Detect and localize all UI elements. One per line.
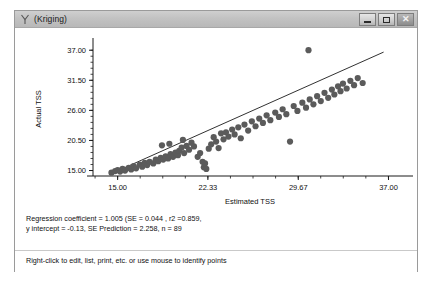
data-point[interactable] (280, 106, 286, 112)
regression-stats: Regression coefficient = 1.005 (SE = 0.0… (20, 214, 410, 244)
data-point[interactable] (216, 145, 222, 151)
data-point[interactable] (197, 150, 203, 156)
close-button[interactable]: ✕ (397, 13, 414, 26)
data-point[interactable] (249, 118, 255, 124)
x-axis-tick-label: 29.67 (289, 183, 308, 192)
data-point[interactable] (267, 117, 273, 123)
close-icon: ✕ (402, 15, 410, 24)
data-point[interactable] (213, 138, 219, 144)
x-axis-tick-label: 22.33 (198, 183, 217, 192)
data-point[interactable] (283, 111, 289, 117)
data-point[interactable] (245, 128, 251, 134)
data-point[interactable] (238, 135, 244, 141)
scatter-plot[interactable]: 15.0020.5026.0031.5037.0015.0022.3329.67… (15, 28, 417, 213)
data-point[interactable] (305, 47, 311, 53)
y-axis-tick-label: 15.00 (67, 166, 86, 175)
data-point[interactable] (225, 134, 231, 140)
data-point[interactable] (360, 80, 366, 86)
x-axis-title: Estimated TSS (225, 197, 275, 206)
data-point[interactable] (351, 82, 357, 88)
data-point[interactable] (310, 101, 316, 107)
window-title: (Kriging) (34, 14, 67, 24)
maximize-icon (383, 17, 390, 23)
data-point[interactable] (276, 114, 282, 120)
kriging-window: (Kriging) ✕ 15.0020.5026.0031.5037.0015.… (14, 10, 418, 272)
data-point[interactable] (307, 96, 313, 102)
data-point[interactable] (264, 112, 270, 118)
data-point[interactable] (202, 160, 208, 166)
data-point[interactable] (252, 123, 258, 129)
stats-line-1: Regression coefficient = 1.005 (SE = 0.0… (26, 214, 410, 224)
data-point[interactable] (355, 75, 361, 81)
data-point[interactable] (318, 98, 324, 104)
window-client-area: 15.0020.5026.0031.5037.0015.0022.3329.67… (15, 28, 417, 272)
data-point[interactable] (159, 142, 165, 148)
hint-separator (15, 250, 417, 251)
data-point[interactable] (191, 143, 197, 149)
x-axis-tick-label: 15.00 (108, 183, 127, 192)
stats-line-2: y intercept = -0.13, SE Prediction = 2.2… (26, 224, 410, 234)
data-point[interactable] (299, 100, 305, 106)
data-point[interactable] (303, 105, 309, 111)
data-point[interactable] (203, 166, 209, 172)
y-axis-tick-label: 37.00 (67, 46, 86, 55)
regression-line (109, 52, 384, 175)
y-axis-tick-label: 20.50 (67, 136, 86, 145)
data-point[interactable] (321, 90, 327, 96)
data-point[interactable] (294, 108, 300, 114)
data-point[interactable] (325, 95, 331, 101)
data-point[interactable] (235, 124, 241, 130)
window-titlebar: (Kriging) ✕ (15, 11, 417, 28)
data-point[interactable] (260, 120, 266, 126)
data-point[interactable] (180, 137, 186, 143)
y-axis-tick-label: 31.50 (67, 76, 86, 85)
data-point[interactable] (232, 131, 238, 137)
data-point[interactable] (166, 141, 172, 147)
y-axis-title: Actual TSS (34, 90, 43, 127)
data-point[interactable] (314, 93, 320, 99)
data-point[interactable] (287, 138, 293, 144)
window-controls: ✕ (359, 13, 414, 26)
minimize-button[interactable] (359, 13, 376, 26)
y-variable-icon (20, 14, 30, 25)
chart-canvas[interactable]: 15.0020.5026.0031.5037.0015.0022.3329.67… (15, 28, 417, 213)
data-point[interactable] (337, 88, 343, 94)
data-point[interactable] (331, 91, 337, 97)
data-point[interactable] (340, 80, 346, 86)
data-point[interactable] (241, 121, 247, 127)
minimize-icon (364, 21, 371, 23)
data-point[interactable] (344, 85, 350, 91)
maximize-button[interactable] (378, 13, 395, 26)
x-axis-tick-label: 37.00 (379, 183, 398, 192)
data-point[interactable] (291, 103, 297, 109)
y-axis-tick-label: 26.00 (67, 106, 86, 115)
hint-text: Right-click to edit, list, print, etc. o… (20, 256, 227, 265)
